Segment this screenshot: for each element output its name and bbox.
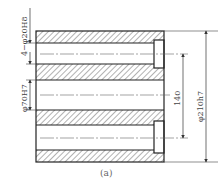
hatched-material [36, 31, 164, 162]
label-hole-spacing: 140 [173, 91, 182, 106]
figure-caption: (a) [100, 168, 112, 178]
extension-lines [26, 31, 218, 162]
part-outline [36, 31, 164, 162]
label-small-holes: 4−φ20H8 [20, 16, 29, 56]
label-outer-diameter: φ210h7 [196, 91, 205, 122]
section-drawing: 4−φ20H8 φ70H7 140 φ210h7 (a) [0, 0, 223, 184]
label-center-bore: φ70H7 [20, 84, 29, 112]
